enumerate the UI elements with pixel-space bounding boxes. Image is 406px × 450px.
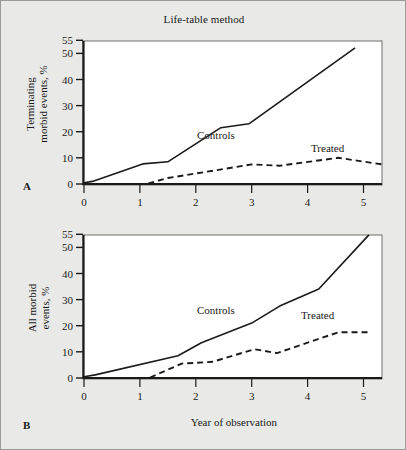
panel-a-ytick-20: 20 <box>62 126 74 138</box>
chart-title: Life-table method <box>1 13 406 25</box>
panel-b-ytick-20: 20 <box>62 320 74 332</box>
panel-b: All morbid events, % B Year of observati… <box>1 223 406 447</box>
panel-a-x-tick-labels: 0 1 2 3 4 5 <box>81 196 367 208</box>
panel-b-plot: 0 10 20 30 40 50 55 0 1 2 <box>1 223 406 447</box>
panel-a-ytick-50: 50 <box>62 47 74 59</box>
panel-b-ytick-0: 0 <box>68 372 74 384</box>
panel-b-ytick-10: 10 <box>62 346 74 358</box>
panel-b-xtick-4: 4 <box>305 390 311 402</box>
panel-b-ytick-50: 50 <box>62 241 74 253</box>
panel-a-x-ticks <box>84 185 364 193</box>
panel-b-label-treated: Treated <box>301 309 335 321</box>
panel-b-xtick-0: 0 <box>81 390 87 402</box>
panel-a-ytick-0: 0 <box>68 178 74 190</box>
panel-a-xtick-2: 2 <box>193 196 199 208</box>
panel-a-xtick-5: 5 <box>361 196 367 208</box>
panel-b-y-tick-labels: 0 10 20 30 40 50 55 <box>62 228 74 384</box>
panel-a-y-ticks <box>76 40 83 184</box>
panel-a-label-treated: Treated <box>311 142 345 154</box>
panel-a: Terminating morbid events, % A <box>1 29 406 219</box>
panel-b-ytick-55: 55 <box>62 228 74 240</box>
panel-a-y-tick-labels: 0 10 20 30 40 50 55 <box>62 34 74 190</box>
panel-b-label-controls: Controls <box>197 304 235 316</box>
panel-b-xtick-5: 5 <box>361 390 367 402</box>
panel-a-plot-background <box>83 41 382 185</box>
panel-b-x-tick-labels: 0 1 2 3 4 5 <box>81 390 367 402</box>
panel-b-ytick-40: 40 <box>62 268 74 280</box>
panel-a-xtick-0: 0 <box>81 196 87 208</box>
panel-a-xtick-4: 4 <box>305 196 311 208</box>
panel-b-xtick-1: 1 <box>137 390 143 402</box>
panel-b-xtick-3: 3 <box>249 390 255 402</box>
panel-b-x-ticks <box>84 379 364 387</box>
figure-container: Life-table method Terminating morbid eve… <box>0 0 406 450</box>
panel-a-xtick-1: 1 <box>137 196 143 208</box>
panel-a-xtick-3: 3 <box>249 196 255 208</box>
panel-b-ytick-30: 30 <box>62 294 74 306</box>
panel-a-label-controls: Controls <box>197 129 235 141</box>
panel-a-ytick-40: 40 <box>62 74 74 86</box>
panel-a-plot: 0 10 20 30 40 50 55 0 1 2 <box>1 29 406 219</box>
panel-b-xtick-2: 2 <box>193 390 199 402</box>
panel-b-y-ticks <box>76 234 83 378</box>
panel-a-ytick-30: 30 <box>62 100 74 112</box>
panel-a-ytick-10: 10 <box>62 152 74 164</box>
panel-a-ytick-55: 55 <box>62 34 74 46</box>
